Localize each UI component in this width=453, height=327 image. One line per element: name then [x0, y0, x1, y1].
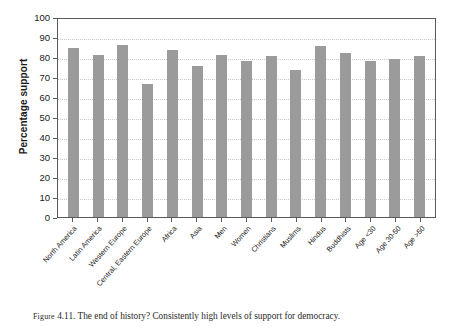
- bar-slot: [308, 19, 333, 217]
- y-axis-tick-label: 20: [0, 172, 55, 184]
- bar: [389, 59, 400, 217]
- bar-slot: [110, 19, 135, 217]
- x-axis-tick-label: Africa: [159, 224, 178, 244]
- y-axis-tick-label: 30: [0, 152, 55, 164]
- bar: [290, 70, 301, 217]
- bar: [117, 45, 128, 217]
- bar-slot: [407, 19, 432, 217]
- x-axis-label-slot: Asia: [184, 222, 209, 302]
- y-axis-tick-label: 70: [0, 72, 55, 84]
- figure-caption: Figure 4.11. The end of history? Consist…: [33, 311, 443, 321]
- x-axis-label-slot: Women: [234, 222, 259, 302]
- bar: [266, 56, 277, 217]
- bar-slot: [135, 19, 160, 217]
- x-axis-label-group: North AmericaLatin AmericaWestern Europe…: [57, 222, 436, 302]
- x-axis-tick-label: Hindus: [306, 224, 328, 247]
- x-axis-label-slot: Africa: [159, 222, 184, 302]
- x-axis-label-slot: Buddhists: [333, 222, 358, 302]
- x-axis-label-slot: Age 30-50: [383, 222, 408, 302]
- caption-prefix: Figure: [33, 312, 55, 321]
- plot-area: [57, 18, 436, 218]
- x-axis-label-slot: Christians: [259, 222, 284, 302]
- y-axis-tick-label: 100: [0, 12, 55, 24]
- bar: [93, 55, 104, 217]
- y-axis-tick-label: 80: [0, 52, 55, 64]
- bar-slot: [358, 19, 383, 217]
- y-axis-tick-label: 60: [0, 92, 55, 104]
- x-axis-label-slot: Hindus: [309, 222, 334, 302]
- bar: [414, 56, 425, 217]
- bar: [315, 46, 326, 217]
- bar-slot: [259, 19, 284, 217]
- bar: [365, 61, 376, 217]
- bar: [68, 48, 79, 217]
- bar: [216, 55, 227, 217]
- x-axis-tick-label: Women: [230, 224, 253, 249]
- bar-slot: [185, 19, 210, 217]
- x-axis-label-slot: Age <30: [358, 222, 383, 302]
- bar-slot: [160, 19, 185, 217]
- bar: [167, 50, 178, 217]
- y-axis-tick-label: 10: [0, 192, 55, 204]
- caption-number: 4.11.: [57, 311, 75, 321]
- y-axis-tick-group: 1009080706050403020100: [0, 0, 57, 236]
- figure-container: Percentage support 100908070605040302010…: [0, 0, 453, 327]
- bar-slot: [333, 19, 358, 217]
- x-axis-tick-label: Men: [212, 224, 228, 241]
- bar-slot: [61, 19, 86, 217]
- y-axis-tick-label: 90: [0, 32, 55, 44]
- bar: [340, 53, 351, 217]
- x-axis-label-slot: Muslims: [284, 222, 309, 302]
- bar-slot: [209, 19, 234, 217]
- bar-slot: [383, 19, 408, 217]
- y-axis-tick-label: 40: [0, 132, 55, 144]
- bar: [142, 84, 153, 217]
- bar: [192, 66, 203, 217]
- bar-slot: [234, 19, 259, 217]
- x-axis-label-slot: Age >50: [408, 222, 433, 302]
- y-axis-tick-label: 50: [0, 112, 55, 124]
- bar-slot: [86, 19, 111, 217]
- y-axis-tick-label: 0: [0, 212, 55, 224]
- caption-text: The end of history? Consistently high le…: [78, 311, 341, 321]
- bar-group: [58, 19, 435, 217]
- y-axis-tick-value: 100: [34, 12, 55, 23]
- bar-slot: [284, 19, 309, 217]
- bar: [241, 61, 252, 217]
- x-axis-tick-label: Asia: [187, 224, 203, 241]
- x-axis-label-slot: Central, Eastern Europe: [135, 222, 160, 302]
- x-axis-label-slot: Men: [209, 222, 234, 302]
